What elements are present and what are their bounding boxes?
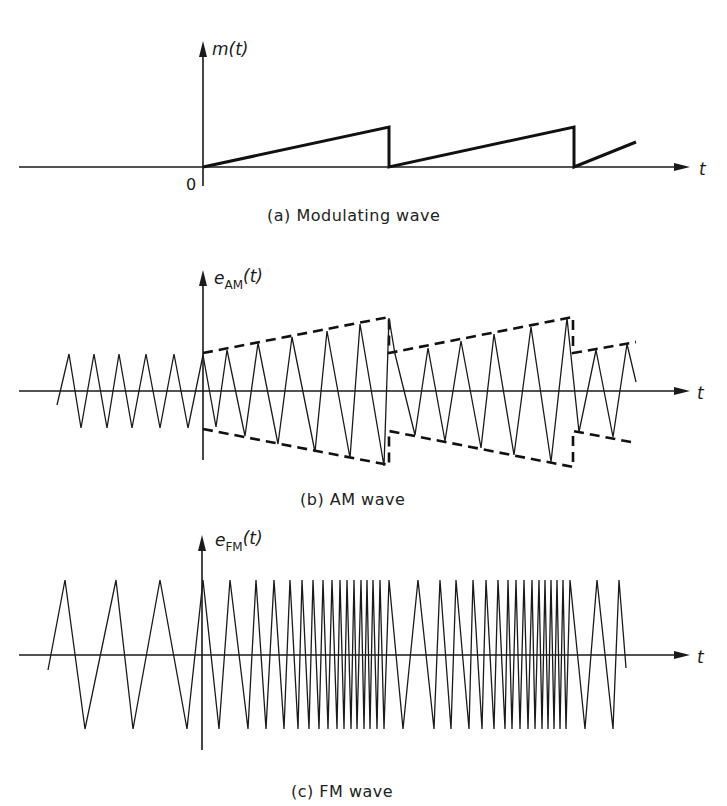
- y-axis-label-efm: eFM(t): [215, 528, 263, 554]
- time-axis-arrow-icon: [674, 387, 690, 395]
- caption-modulating-wave: (a) Modulating wave: [267, 206, 440, 225]
- panel-modulating-wave: m(t) 0 t (a) Modulating wave: [19, 39, 707, 225]
- panel-fm-wave: eFM(t) t (c) FM wave: [19, 528, 705, 801]
- y-axis-label-m: m(t): [212, 39, 249, 59]
- time-axis-arrow-icon: [674, 163, 690, 171]
- caption-am-wave: (b) AM wave: [300, 490, 405, 509]
- amplitude-axis-arrow-icon: [199, 41, 207, 57]
- time-axis-arrow-icon: [674, 651, 690, 659]
- y-axis-label-eam: eAM(t): [214, 266, 263, 292]
- am-carrier-signal: [57, 318, 636, 466]
- panel-am-wave: eAM(t) t (b) AM wave: [19, 266, 705, 509]
- upper-envelope: [203, 317, 636, 353]
- amplitude-axis-arrow-icon: [198, 535, 206, 551]
- lower-envelope: [203, 429, 636, 467]
- caption-fm-wave: (c) FM wave: [291, 782, 393, 801]
- x-axis-label-t: t: [699, 159, 707, 179]
- sawtooth-modulating-signal: [203, 127, 636, 167]
- x-axis-label-t: t: [697, 647, 705, 667]
- modulation-figure: m(t) 0 t (a) Modulating wave eAM(t) t (b…: [0, 0, 727, 806]
- origin-label: 0: [186, 175, 196, 194]
- amplitude-axis-arrow-icon: [199, 270, 207, 286]
- x-axis-label-t: t: [697, 383, 705, 403]
